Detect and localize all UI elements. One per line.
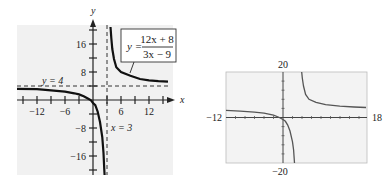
callout-numerator: 12x + 8 — [140, 33, 174, 45]
x-tick-label: 6 — [119, 106, 124, 117]
horizontal-asymptote-label: y = 4 — [41, 75, 63, 86]
left-graph: y = 12x + 8 3x − 9 y x −12 −6 6 12 16 8 … — [17, 5, 185, 175]
right-graph: 20 −20 −12 18 — [206, 59, 382, 177]
x-tick-label: −12 — [29, 106, 45, 117]
figure: y = 12x + 8 3x − 9 y x −12 −6 6 12 16 8 … — [0, 0, 388, 192]
y-tick-label: −16 — [70, 151, 86, 162]
xmin-label: −12 — [206, 112, 222, 123]
y-axis-arrow-icon — [90, 19, 96, 27]
y-tick-label: 16 — [76, 39, 86, 50]
xmax-label: 18 — [372, 112, 382, 123]
x-axis-label: x — [179, 94, 185, 105]
x-tick-label: −6 — [60, 106, 71, 117]
ymin-label: −20 — [272, 166, 288, 177]
ymax-label: 20 — [278, 59, 288, 70]
y-tick-label: −8 — [75, 123, 86, 134]
vertical-asymptote-label: x = 3 — [110, 122, 132, 133]
y-axis-label: y — [90, 5, 96, 16]
callout-denominator: 3x − 9 — [143, 48, 172, 60]
x-tick-label: 12 — [144, 106, 154, 117]
y-tick-label: 8 — [81, 67, 86, 78]
